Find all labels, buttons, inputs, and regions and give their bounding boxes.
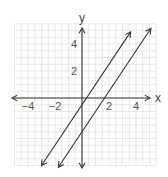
coordinate-plane: −4−22424xy bbox=[0, 0, 168, 177]
y-tick-label: 2 bbox=[71, 65, 77, 77]
y-axis-label: y bbox=[79, 11, 85, 25]
grid bbox=[15, 24, 157, 166]
x-tick-label: 2 bbox=[106, 100, 112, 112]
line-2-arrow-start-icon bbox=[58, 161, 63, 167]
y-tick-label: 4 bbox=[71, 38, 77, 50]
x-tick-label: −4 bbox=[22, 100, 35, 112]
x-tick-label: −2 bbox=[49, 100, 62, 112]
x-tick-label: 4 bbox=[133, 100, 139, 112]
line-2-arrow-end-icon bbox=[146, 28, 151, 34]
x-axis-label: x bbox=[155, 91, 161, 105]
tick-labels: −4−22424xy bbox=[22, 11, 161, 112]
line-1-arrow-start-icon bbox=[42, 160, 47, 166]
